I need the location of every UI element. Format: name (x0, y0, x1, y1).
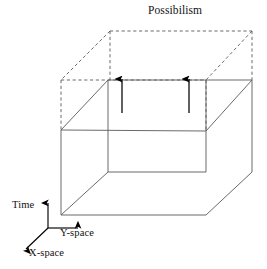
solid-mid-horizontal-edge (61, 130, 206, 131)
yspace-axis-label: Y-space (60, 228, 94, 239)
possibility-arrows (122, 79, 189, 113)
xspace-axis (26, 228, 48, 249)
spacetime-cube-diagram (0, 0, 267, 269)
xspace-axis-label: X-space (29, 248, 64, 259)
dashed-possibility-volume (61, 31, 252, 131)
solid-top-right-diagonal (206, 80, 252, 131)
figure-root: Possibilism Time Y-space X-space (0, 0, 267, 269)
solid-back-left-diagonal (61, 80, 108, 130)
dashed-top-left-edge (61, 31, 110, 80)
solid-realized-volume (61, 80, 252, 215)
figure-title: Possibilism (148, 5, 202, 17)
solid-bottom-right-diagonal (206, 172, 252, 215)
time-axis-label: Time (12, 200, 34, 211)
solid-bottom-left-diagonal (61, 172, 108, 215)
dashed-top-right-edge (206, 31, 252, 80)
